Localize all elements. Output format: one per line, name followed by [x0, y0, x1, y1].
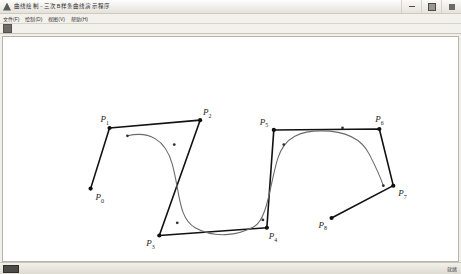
- control-point-P1[interactable]: [107, 126, 111, 130]
- curve-knot-marker-1: [173, 143, 176, 146]
- curve-knot-marker-4: [282, 143, 285, 146]
- window-title: 曲线绘制 - 三次B样条曲线演示程序: [14, 3, 110, 10]
- title-bar[interactable]: 曲线绘制 - 三次B样条曲线演示程序: [0, 0, 461, 14]
- minimize-icon: [409, 6, 415, 7]
- status-bar: 就绪: [0, 262, 461, 274]
- control-point-P6[interactable]: [377, 127, 381, 131]
- control-point-label-P1: P1: [100, 114, 110, 125]
- control-point-P4[interactable]: [265, 226, 269, 230]
- client-area: P0P1P2P3P4P5P6P7P8: [0, 34, 461, 262]
- control-polygon: [91, 120, 394, 235]
- control-point-label-P4: P4: [268, 232, 278, 243]
- curve-knot-marker-0: [126, 134, 129, 137]
- menu-draw[interactable]: 绘制(D): [25, 16, 42, 22]
- status-right-text: 就绪: [447, 266, 457, 272]
- window-controls: [401, 0, 461, 13]
- maximize-icon: [428, 3, 436, 11]
- control-point-label-P5: P5: [259, 117, 269, 128]
- control-point-P2[interactable]: [198, 118, 202, 122]
- close-icon: [449, 4, 455, 10]
- control-point-label-P8: P8: [318, 220, 328, 231]
- curve-knot-marker-2: [176, 221, 179, 224]
- app-triangle-icon: [3, 3, 11, 11]
- control-point-P3[interactable]: [157, 234, 161, 238]
- drawing-canvas[interactable]: P0P1P2P3P4P5P6P7P8: [2, 36, 459, 262]
- control-point-P8[interactable]: [329, 216, 333, 220]
- control-point-label-P7: P7: [397, 189, 407, 200]
- control-point-label-P3: P3: [145, 238, 155, 249]
- maximize-button[interactable]: [421, 0, 441, 13]
- control-point-label-P2: P2: [202, 107, 212, 118]
- status-indicator: [3, 265, 19, 273]
- curve-knot-marker-6: [382, 184, 385, 187]
- control-point-P5[interactable]: [272, 128, 276, 132]
- curve-knot-marker-5: [341, 127, 344, 130]
- curve-knot-marker-3: [261, 219, 264, 222]
- close-button[interactable]: [441, 0, 461, 13]
- control-polygon-layer: [91, 120, 394, 235]
- menu-help[interactable]: 帮助(H): [71, 16, 88, 22]
- menu-file[interactable]: 文件(F): [3, 16, 19, 22]
- toolbar-draw-tool[interactable]: [3, 24, 12, 33]
- tool-bar: [0, 24, 461, 34]
- control-point-label-P6: P6: [374, 114, 384, 125]
- control-point-P7[interactable]: [391, 184, 395, 188]
- status-right-area: 就绪: [447, 263, 457, 274]
- spline-figure: P0P1P2P3P4P5P6P7P8: [3, 37, 458, 261]
- menu-view[interactable]: 视图(V): [48, 16, 65, 22]
- minimize-button[interactable]: [401, 0, 421, 13]
- control-point-label-P0: P0: [95, 192, 105, 203]
- menu-bar: 文件(F) 绘制(D) 视图(V) 帮助(H): [0, 14, 461, 24]
- application-window: 曲线绘制 - 三次B样条曲线演示程序 文件(F) 绘制(D) 视图(V) 帮助(…: [0, 0, 461, 274]
- control-point-P0[interactable]: [89, 187, 93, 191]
